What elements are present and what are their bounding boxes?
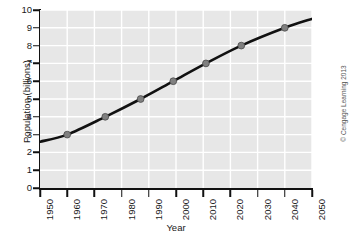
x-tick-label: 1970 (98, 199, 109, 220)
x-tick-mark (121, 190, 123, 197)
data-series-world-population (40, 10, 312, 188)
data-point-marker (203, 60, 210, 67)
y-tick-label: 7 (18, 59, 32, 69)
y-tick-mark (33, 45, 40, 47)
x-tick-label: 2040 (289, 199, 300, 220)
y-tick-label: 8 (18, 41, 32, 51)
x-tick-label: 1960 (71, 199, 82, 220)
y-tick-mark (33, 134, 40, 136)
y-axis-tick-labels: 012345678910 (6, 0, 32, 238)
x-tick-label: 2000 (180, 199, 191, 220)
y-tick-mark (33, 9, 40, 11)
y-tick-label: 9 (18, 23, 32, 33)
x-tick-mark (148, 190, 150, 197)
population-line-chart: Population (billions) 012345678910 19501… (0, 0, 357, 238)
y-tick-label: 5 (18, 94, 32, 104)
x-tick-mark (94, 190, 96, 197)
y-tick-label: 10 (18, 5, 32, 15)
y-tick-label: 4 (18, 112, 32, 122)
y-tick-label: 6 (18, 76, 32, 86)
x-tick-mark (202, 190, 204, 197)
x-axis-title: Year (40, 222, 312, 233)
x-tick-mark (284, 190, 286, 197)
x-tick-label: 1990 (153, 199, 164, 220)
y-tick-mark (33, 27, 40, 29)
y-tick-label: 0 (18, 183, 32, 193)
y-tick-mark (33, 116, 40, 118)
data-point-marker (102, 113, 109, 120)
data-point-marker (170, 78, 177, 85)
data-point-marker (238, 42, 245, 49)
x-tick-label: 2020 (234, 199, 245, 220)
x-tick-label: 1950 (44, 199, 55, 220)
x-tick-mark (39, 190, 41, 197)
y-tick-mark (33, 187, 40, 189)
y-tick-mark (33, 80, 40, 82)
y-tick-label: 1 (18, 165, 32, 175)
y-tick-mark (33, 98, 40, 100)
x-tick-mark (175, 190, 177, 197)
y-tick-label: 2 (18, 148, 32, 158)
data-point-marker (281, 24, 288, 31)
copyright-credit: © Cengage Learning 2013 (340, 44, 347, 164)
y-tick-mark (33, 63, 40, 65)
data-point-marker (137, 96, 144, 103)
x-tick-label: 2010 (207, 199, 218, 220)
x-tick-mark (66, 190, 68, 197)
plot-area (40, 10, 312, 188)
y-tick-mark (33, 152, 40, 154)
x-tick-mark (257, 190, 259, 197)
x-tick-mark (230, 190, 232, 197)
x-tick-label: 2030 (262, 199, 273, 220)
x-tick-mark (311, 190, 313, 197)
y-tick-label: 3 (18, 130, 32, 140)
y-tick-mark (33, 169, 40, 171)
x-tick-label: 2050 (316, 199, 327, 220)
data-point-marker (64, 131, 71, 138)
x-tick-label: 1980 (126, 199, 137, 220)
